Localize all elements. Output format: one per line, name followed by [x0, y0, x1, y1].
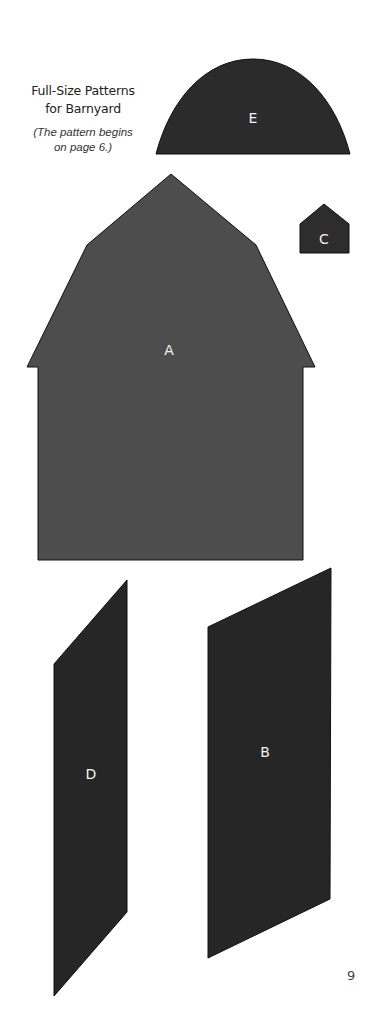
title-line-1: Full-Size Patterns	[18, 82, 148, 100]
piece-label-d: D	[86, 766, 97, 782]
piece-label-a: A	[164, 342, 174, 358]
pattern-page: Full-Size Patterns for Barnyard (The pat…	[0, 0, 371, 1025]
piece-label-e: E	[249, 110, 258, 126]
pattern-piece-d	[54, 580, 127, 996]
subtitle-line-1: (The pattern begins	[18, 125, 148, 140]
page-title: Full-Size Patterns for Barnyard	[18, 82, 148, 118]
subtitle-line-2: on page 6.)	[18, 140, 148, 155]
pattern-piece-a	[27, 174, 315, 560]
page-number: 9	[347, 968, 355, 983]
pattern-piece-e	[156, 59, 350, 154]
piece-label-b: B	[260, 744, 270, 760]
pattern-piece-b	[208, 568, 331, 958]
piece-label-c: C	[319, 231, 329, 247]
title-line-2: for Barnyard	[18, 100, 148, 118]
page-subtitle: (The pattern begins on page 6.)	[18, 125, 148, 155]
